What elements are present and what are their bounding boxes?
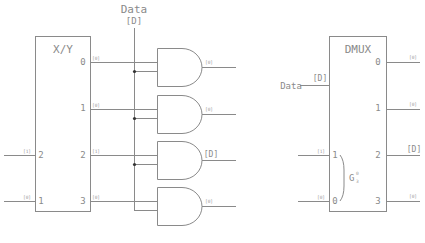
and-gate-0: [0] — [158, 49, 237, 87]
dmux-select-value-1: [1] — [317, 149, 325, 154]
select-wires — [91, 63, 157, 202]
data-input-bus: [D] — [126, 16, 142, 26]
dmux-output-pin-0: 0 — [375, 57, 380, 67]
xy-output-value-1: [0] — [92, 103, 100, 108]
dmux-group-sub: 3 — [356, 179, 359, 184]
xy-output-value-3: [0] — [92, 195, 100, 200]
junction-dot — [133, 117, 136, 120]
xy-output-pin-2: 2 — [80, 150, 85, 160]
and-gate-3: [0] — [158, 188, 237, 226]
data-wires — [133, 70, 157, 211]
xy-output-value-0: [0] — [92, 56, 100, 61]
dmux: DMUX Data [D] [1] 1 [0] 0 G 0 3 0 1 2 3 … — [280, 37, 421, 212]
and-gate-icon — [158, 188, 203, 226]
dmux-group-sup: 0 — [356, 171, 359, 176]
xy-input-value-2: [1] — [23, 149, 31, 154]
xy-output-pin-1: 1 — [80, 103, 85, 113]
and-gate-output-3: [0] — [205, 199, 213, 204]
xy-decoder: X/Y [1] 2 [0] 1 0 1 2 3 [0] [0] [1] [0] — [4, 37, 100, 212]
dmux-output-value-3: [0] — [409, 194, 417, 199]
dmux-data-value: [D] — [313, 74, 327, 83]
and-gate-icon — [158, 49, 202, 87]
demux-schematic: Data [D] X/Y [1] 2 [0] 1 0 1 2 3 [0] [0]… — [0, 0, 425, 243]
dmux-output-pin-2: 2 — [375, 150, 380, 160]
and-gate-output-2: [D] — [204, 150, 218, 159]
dmux-select-value-0: [0] — [317, 195, 325, 200]
dmux-data-label: Data — [280, 81, 302, 91]
dmux-output-pin-1: 1 — [375, 103, 380, 113]
xy-input-value-1: [0] — [23, 195, 31, 200]
dmux-output-pin-3: 3 — [375, 196, 380, 206]
dmux-select-pin-0: 0 — [332, 196, 337, 206]
xy-output-pin-3: 3 — [80, 196, 85, 206]
dmux-title: DMUX — [345, 43, 372, 56]
xy-decoder-title: X/Y — [53, 43, 73, 56]
dmux-output-value-2: [D] — [407, 145, 421, 154]
junction-dot — [133, 163, 136, 166]
xy-output-pin-0: 0 — [80, 57, 85, 67]
data-input-label: Data — [121, 3, 148, 16]
and-gate-output-1: [0] — [205, 107, 213, 112]
junction-dot — [133, 70, 136, 73]
dmux-group-label: G — [349, 173, 354, 183]
and-gate-1: [0] — [158, 96, 237, 134]
data-input: Data [D] — [121, 3, 148, 211]
dmux-select-pin-1: 1 — [332, 150, 337, 160]
xy-input-pin-2: 2 — [38, 150, 43, 160]
xy-input-pin-1: 1 — [38, 196, 43, 206]
and-gate-icon — [158, 96, 203, 134]
and-gate-icon — [158, 142, 203, 180]
and-gate-2: [D] — [158, 142, 237, 180]
dmux-output-value-1: [0] — [409, 102, 417, 107]
xy-output-value-2: [1] — [92, 149, 100, 154]
dmux-output-value-0: [0] — [409, 55, 417, 60]
and-gate-output-0: [0] — [205, 60, 213, 65]
